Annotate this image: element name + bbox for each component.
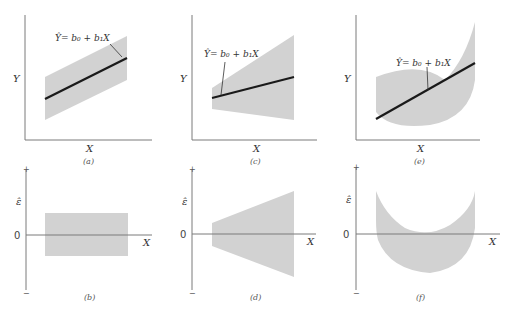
panel-f: + − ε̂ 0 X (f) — [343, 163, 500, 302]
panel-b: + − ε̂ 0 X (b) — [14, 165, 152, 302]
panel-c: Ŷ= b₀ + b₁X Y X (c) — [180, 15, 317, 166]
x-label-d: X — [306, 236, 315, 247]
plus-label-b: + — [23, 165, 30, 174]
regression-residual-diagram: Ŷ= b₀ + b₁X Y X (a) Ŷ= b₀ + b₁X Y X (c) … — [0, 0, 509, 314]
x-label-b: X — [142, 237, 151, 248]
caption-f: (f) — [416, 293, 425, 302]
zero-label-f: 0 — [343, 229, 349, 240]
residual-label-f: ε̂ — [346, 194, 351, 205]
zero-label-d: 0 — [180, 229, 186, 240]
x-label-a: X — [85, 143, 94, 154]
caption-d: (d) — [250, 293, 261, 302]
plus-label-d: + — [189, 165, 196, 174]
caption-a: (a) — [83, 157, 94, 166]
minus-label-b: − — [23, 289, 30, 298]
equation-label-e: Ŷ= b₀ + b₁X — [396, 57, 451, 68]
plus-label-f: + — [353, 163, 360, 172]
equation-label-a: Ŷ= b₀ + b₁X — [55, 32, 110, 43]
x-label-c: X — [252, 143, 261, 154]
minus-label-d: − — [189, 289, 196, 298]
y-label-e: Y — [344, 73, 352, 84]
panel-d: + − ε̂ 0 X (d) — [180, 165, 316, 302]
panel-e: Ŷ= b₀ + b₁X Y X (e) — [344, 15, 480, 166]
zero-label-b: 0 — [14, 230, 20, 241]
x-label-f: X — [488, 236, 497, 247]
equation-label-c: Ŷ= b₀ + b₁X — [204, 48, 259, 59]
caption-e: (e) — [414, 157, 425, 166]
minus-label-f: − — [353, 289, 360, 298]
y-label-c: Y — [180, 73, 188, 84]
y-label-a: Y — [13, 73, 21, 84]
panel-a: Ŷ= b₀ + b₁X Y X (a) — [13, 15, 152, 166]
residual-label-d: ε̂ — [182, 196, 187, 207]
band-c — [212, 35, 294, 120]
caption-b: (b) — [84, 293, 95, 302]
x-label-e: X — [416, 143, 425, 154]
residual-label-b: ε̂ — [16, 196, 21, 207]
band-f — [376, 191, 475, 273]
caption-c: (c) — [250, 157, 261, 166]
